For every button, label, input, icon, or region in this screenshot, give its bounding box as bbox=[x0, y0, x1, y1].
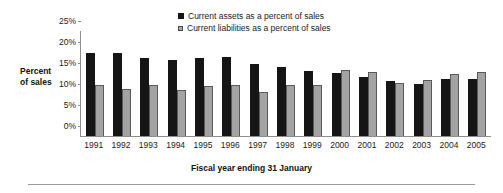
bar-assets bbox=[359, 77, 368, 136]
bar-assets bbox=[250, 64, 259, 136]
bar-assets bbox=[195, 58, 204, 136]
y-axis-tick: 25% bbox=[50, 16, 81, 26]
x-axis-tick-label: 2002 bbox=[381, 140, 408, 150]
y-axis-tick-label: 25% bbox=[50, 16, 76, 26]
legend-item-assets: Current assets as a percent of sales bbox=[178, 11, 331, 21]
bar-group bbox=[327, 31, 354, 136]
bar-liabilities bbox=[95, 85, 104, 136]
y-axis-tick: 20% bbox=[50, 37, 81, 47]
bar-assets bbox=[113, 53, 122, 136]
bar-liabilities bbox=[450, 74, 459, 136]
bar-assets bbox=[414, 84, 423, 136]
chart-legend: Current assets as a percent of sales Cur… bbox=[178, 11, 331, 33]
y-axis-tick-label: 10% bbox=[50, 79, 76, 89]
x-axis-tick-label: 1998 bbox=[271, 140, 298, 150]
x-axis-tick-label: 2000 bbox=[326, 140, 353, 150]
x-axis-tick-label: 1999 bbox=[299, 140, 326, 150]
bar-liabilities bbox=[259, 92, 268, 136]
bar-assets bbox=[304, 71, 313, 136]
bar-liabilities bbox=[177, 90, 186, 136]
bar-liabilities bbox=[423, 80, 432, 136]
x-axis-tick-label: 2004 bbox=[435, 140, 462, 150]
bar-group bbox=[163, 31, 190, 136]
y-axis-tick-label: 15% bbox=[50, 58, 76, 68]
plot-area: 25%20%15%10%5%0% bbox=[80, 31, 491, 137]
y-axis-tick: 10% bbox=[50, 79, 81, 89]
bar-assets bbox=[468, 79, 477, 136]
bar-groups bbox=[81, 31, 491, 136]
y-axis-tick-mark bbox=[78, 21, 81, 22]
bar-group bbox=[218, 31, 245, 136]
bar-assets bbox=[277, 67, 286, 136]
bar-liabilities bbox=[395, 83, 404, 136]
bar-group bbox=[190, 31, 217, 136]
bottom-divider bbox=[28, 184, 475, 185]
chart-figure: Current assets as a percent of sales Cur… bbox=[0, 0, 503, 193]
bar-group bbox=[272, 31, 299, 136]
bar-group bbox=[354, 31, 381, 136]
y-axis-tick-label: 20% bbox=[50, 37, 76, 47]
bar-liabilities bbox=[122, 89, 131, 136]
y-axis-tick-label: 5% bbox=[50, 100, 76, 110]
bar-assets bbox=[168, 60, 177, 136]
bar-liabilities bbox=[313, 85, 322, 136]
legend-swatch-liabilities-icon bbox=[178, 26, 183, 31]
x-axis-tick-label: 1991 bbox=[80, 140, 107, 150]
x-axis-tick-label: 2001 bbox=[353, 140, 380, 150]
bar-liabilities bbox=[204, 86, 213, 136]
bar-liabilities bbox=[286, 85, 295, 136]
x-axis-tick-label: 1995 bbox=[189, 140, 216, 150]
bar-group bbox=[245, 31, 272, 136]
x-axis-tick-label: 2005 bbox=[463, 140, 490, 150]
y-axis-tick: 5% bbox=[50, 100, 81, 110]
x-axis-tick-label: 2003 bbox=[408, 140, 435, 150]
bar-assets bbox=[86, 53, 95, 136]
bar-group bbox=[382, 31, 409, 136]
bar-liabilities bbox=[368, 72, 377, 136]
x-axis-tick-label: 1993 bbox=[135, 140, 162, 150]
bar-liabilities bbox=[341, 70, 350, 136]
x-axis-tick-label: 1994 bbox=[162, 140, 189, 150]
bar-group bbox=[436, 31, 463, 136]
bar-assets bbox=[332, 73, 341, 136]
y-axis-tick: 15% bbox=[50, 58, 81, 68]
bar-liabilities bbox=[477, 72, 486, 136]
x-axis-tick-labels: 1991199219931994199519961997199819992000… bbox=[80, 140, 490, 150]
bar-liabilities bbox=[231, 85, 240, 136]
bar-group bbox=[108, 31, 135, 136]
y-axis-tick-label: 0% bbox=[50, 121, 76, 131]
bar-assets bbox=[386, 81, 395, 136]
bar-group bbox=[409, 31, 436, 136]
bar-group bbox=[300, 31, 327, 136]
bar-liabilities bbox=[149, 85, 158, 136]
bar-assets bbox=[140, 58, 149, 136]
legend-label-assets: Current assets as a percent of sales bbox=[188, 11, 324, 21]
bar-group bbox=[136, 31, 163, 136]
x-axis-title: Fiscal year ending 31 January bbox=[0, 163, 503, 173]
y-axis-tick: 0% bbox=[50, 121, 81, 131]
bar-group bbox=[464, 31, 491, 136]
legend-swatch-assets-icon bbox=[178, 13, 184, 19]
bar-group bbox=[81, 31, 108, 136]
x-axis-tick-label: 1996 bbox=[217, 140, 244, 150]
bar-assets bbox=[441, 79, 450, 136]
x-axis-tick-label: 1997 bbox=[244, 140, 271, 150]
x-axis-tick-label: 1992 bbox=[107, 140, 134, 150]
bar-assets bbox=[222, 57, 231, 136]
